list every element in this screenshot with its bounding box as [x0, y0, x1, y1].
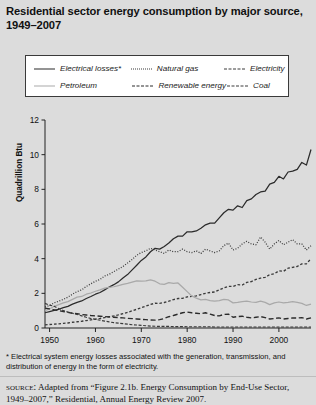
legend-label: Electricity [250, 64, 285, 73]
line-style-swatch-icon [34, 83, 55, 89]
x-axis-tick-label: 1990 [224, 335, 243, 345]
legend-item-natural-gas[interactable]: Natural gas [131, 64, 224, 73]
figure-page: Residential sector energy consumption by… [0, 0, 316, 405]
line-style-swatch-icon [132, 83, 153, 89]
line-chart-plot: 024681012195019601970198019902000 [0, 108, 316, 346]
divider [0, 376, 316, 377]
page-title: Residential sector energy consumption by… [6, 4, 310, 32]
legend-row: Electrical losses* Natural gas Electrici… [34, 60, 282, 77]
y-axis-tick-label: 2 [34, 288, 39, 298]
legend-item-electrical-losses[interactable]: Electrical losses* [34, 64, 131, 73]
line-style-swatch-icon [227, 83, 248, 89]
y-axis-tick-label: 12 [30, 115, 40, 125]
legend-label: Natural gas [157, 64, 198, 73]
x-axis-tick-label: 1980 [178, 335, 197, 345]
x-axis-tick-label: 1960 [86, 335, 105, 345]
series-line-renewable-energy [45, 308, 311, 320]
y-axis-tick-label: 10 [30, 150, 40, 160]
source-note: source: Adapted from “Figure 2.1b. Energ… [6, 382, 312, 405]
legend-item-renewable-energy[interactable]: Renewable energy [132, 81, 227, 90]
y-axis-tick-label: 0 [34, 323, 39, 333]
legend-item-electricity[interactable]: Electricity [224, 64, 282, 73]
chart-legend: Electrical losses* Natural gas Electrici… [25, 55, 289, 97]
legend-label: Electrical losses* [60, 64, 121, 73]
legend-item-petroleum[interactable]: Petroleum [34, 81, 132, 90]
legend-label: Coal [253, 81, 270, 90]
y-axis-tick-label: 6 [34, 219, 39, 229]
legend-item-coal[interactable]: Coal [227, 81, 282, 90]
footnote: * Electrical system energy losses associ… [6, 352, 312, 372]
series-line-electrical-losses [45, 149, 311, 312]
line-style-swatch-icon [131, 66, 152, 72]
line-style-swatch-icon [224, 66, 245, 72]
source-label: source: [6, 382, 36, 392]
source-text: Adapted from “Figure 2.1b. Energy Consum… [6, 382, 289, 404]
x-axis-tick-label: 2000 [270, 335, 289, 345]
y-axis-tick-label: 8 [34, 184, 39, 194]
legend-label: Petroleum [60, 81, 97, 90]
x-axis-tick-label: 1970 [132, 335, 151, 345]
series-line-natural-gas [45, 237, 311, 307]
series-line-petroleum [45, 280, 311, 311]
legend-row: Petroleum Renewable energy Coal [34, 77, 282, 94]
y-axis-tick-label: 4 [34, 254, 39, 264]
legend-label: Renewable energy [158, 81, 226, 90]
line-style-swatch-icon [34, 66, 55, 72]
x-axis-tick-label: 1950 [40, 335, 59, 345]
